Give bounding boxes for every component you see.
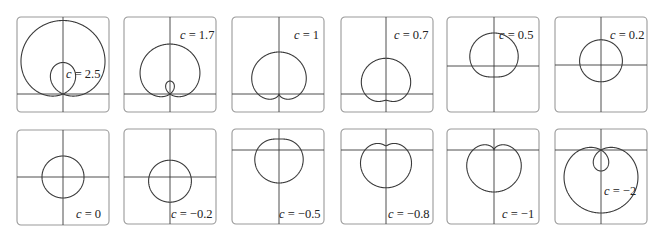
limacon-panel: c = −0.5 — [232, 129, 324, 224]
c-value-label: c = 0 — [76, 207, 101, 221]
c-value-label: c = −0.5 — [279, 207, 321, 221]
c-value-label: c = −1 — [502, 207, 534, 221]
limacon-panel: c = 1 — [232, 17, 324, 112]
c-value-label: c = −0.8 — [388, 207, 430, 221]
limacon-panel: c = −0.2 — [124, 129, 216, 224]
limacon-panel: c = −1 — [447, 129, 539, 224]
c-value-label: c = −2 — [604, 184, 636, 198]
c-value-label: c = 1 — [294, 28, 319, 42]
limacon-figure: c = 2.5c = 1.7c = 1c = 0.7c = 0.5c = 0.2… — [0, 0, 658, 236]
limacon-panel: c = 0.5 — [447, 17, 539, 112]
c-value-label: c = −0.2 — [171, 207, 213, 221]
c-value-label: c = 1.7 — [180, 28, 215, 42]
limacon-panel: c = 0.7 — [341, 17, 433, 112]
c-value-label: c = 0.5 — [499, 28, 534, 42]
c-value-label: c = 2.5 — [66, 67, 101, 81]
panel-grid: c = 2.5c = 1.7c = 1c = 0.7c = 0.5c = 0.2… — [17, 17, 647, 225]
limacon-panel: c = 0.2 — [555, 17, 647, 112]
limacon-panel: c = −2 — [555, 129, 647, 224]
limacon-panel: c = 1.7 — [124, 17, 216, 112]
limacon-panel: c = 0 — [17, 130, 109, 225]
limacon-panel: c = −0.8 — [341, 129, 433, 224]
c-value-label: c = 0.2 — [610, 28, 645, 42]
limacon-panel: c = 2.5 — [17, 17, 109, 112]
c-value-label: c = 0.7 — [394, 28, 429, 42]
